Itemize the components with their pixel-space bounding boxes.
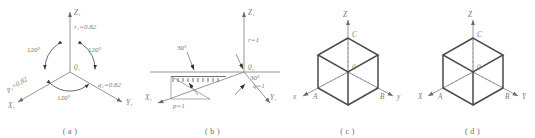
panel-d: Z X Y C 0 A B ( d ) bbox=[410, 0, 535, 138]
panel-a-origin-label: 0₁ bbox=[74, 64, 81, 72]
panel-a-ratio-p: p₁=0.82 bbox=[4, 75, 29, 94]
panel-a-z-axis-label: Z₁ bbox=[74, 9, 81, 17]
panel-c-caption: ( c ) bbox=[285, 127, 410, 136]
panel-a-angle-upper-left: 120° bbox=[27, 46, 41, 54]
panel-a-y-axis-label: Y₁ bbox=[126, 99, 133, 107]
panel-b-x-axis-label: X₁ bbox=[144, 94, 152, 102]
panel-b-ratio-q: q=1 bbox=[253, 82, 265, 90]
panel-c-origin-label: 0 bbox=[352, 64, 356, 72]
panel-c-drawing: Z x y C 0 A B bbox=[285, 0, 410, 125]
panel-d-y-axis-label: Y bbox=[522, 93, 527, 101]
panel-b-angle-arrow-lower-right bbox=[235, 84, 245, 95]
panel-b: Z₁ X₁ Y₁ 0₁ r=1 p=1 q=1 30° 30° ( b ) bbox=[140, 0, 285, 138]
panel-d-z-axis-label: Z bbox=[468, 11, 473, 19]
panel-a-ratio-r: r₁=0.82 bbox=[74, 23, 97, 31]
panel-a-x-axis-label: X₁ bbox=[7, 102, 15, 110]
panel-b-origin-label: 0₁ bbox=[248, 64, 255, 72]
panel-a: Z₁ X₁ Y₁ 0₁ r₁=0.82 p₁=0.82 q₁=0.82 120°… bbox=[0, 0, 140, 138]
panel-a-caption: ( a ) bbox=[0, 127, 140, 136]
panel-c-z-axis-label: Z bbox=[343, 11, 348, 19]
panel-b-y-axis-label: Y₁ bbox=[270, 94, 277, 102]
panel-c-x-axis-label: x bbox=[292, 93, 297, 101]
panel-d-x-axis-label: X bbox=[417, 93, 423, 101]
panel-d-vertex-b: B bbox=[505, 93, 510, 101]
panel-d-caption: ( d ) bbox=[410, 127, 535, 136]
panel-c-vertex-b: B bbox=[380, 93, 385, 101]
panel-b-ratio-r: r=1 bbox=[248, 36, 259, 44]
panel-b-angle-right: 30° bbox=[250, 74, 260, 82]
panel-b-angle-left: 30° bbox=[177, 44, 187, 52]
panel-c-vertex-c: C bbox=[352, 31, 357, 39]
panel-b-angle-arrow-left bbox=[187, 52, 194, 70]
panel-d-vertex-a: A bbox=[437, 93, 443, 101]
panel-d-drawing: Z X Y C 0 A B bbox=[410, 0, 535, 125]
panel-b-z-axis-label: Z₁ bbox=[248, 9, 255, 17]
panel-b-drawing: Z₁ X₁ Y₁ 0₁ r=1 p=1 q=1 30° 30° bbox=[140, 0, 285, 125]
panel-b-caption: ( b ) bbox=[140, 127, 285, 136]
panel-b-set-square bbox=[171, 77, 210, 100]
panel-b-angle-arrow-right bbox=[236, 54, 243, 69]
panel-c: Z x y C 0 A B ( c ) bbox=[285, 0, 410, 138]
panel-d-origin-label: 0 bbox=[477, 64, 481, 72]
panel-c-y-axis-label: y bbox=[396, 93, 401, 101]
panel-a-arc-bottom bbox=[51, 84, 89, 91]
panel-a-drawing: Z₁ X₁ Y₁ 0₁ r₁=0.82 p₁=0.82 q₁=0.82 120°… bbox=[0, 0, 140, 125]
panel-a-angle-bottom: 120° bbox=[57, 94, 71, 102]
panel-a-angle-upper-right: 120° bbox=[88, 46, 102, 54]
technical-drawing-figure: Z₁ X₁ Y₁ 0₁ r₁=0.82 p₁=0.82 q₁=0.82 120°… bbox=[0, 0, 535, 138]
panel-a-ratio-q: q₁=0.82 bbox=[98, 81, 121, 89]
panel-d-vertex-c: C bbox=[477, 31, 482, 39]
panel-a-arc-upper-left bbox=[45, 45, 58, 70]
panel-b-ratio-p: p=1 bbox=[172, 102, 185, 110]
panel-c-vertex-a: A bbox=[312, 93, 318, 101]
